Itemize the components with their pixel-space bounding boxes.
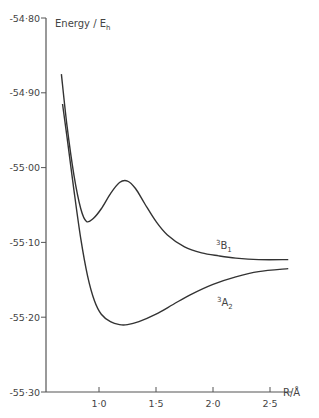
x-tick-label: 1·0	[91, 398, 106, 409]
energy-curve-chart: -54·80-54·90-55·00-55·10-55·20-55·30 1·0…	[0, 0, 319, 418]
x-tick-label: 2·0	[205, 398, 220, 409]
y-tick-label: -54·90	[9, 87, 40, 98]
y-tick-label: -55·20	[9, 312, 40, 323]
y-ticks: -54·80-54·90-55·00-55·10-55·20-55·30	[9, 13, 46, 398]
curve-label-3b1: 3B1	[216, 239, 232, 254]
y-tick-label: -55·00	[9, 162, 40, 173]
y-tick-label: -54·80	[9, 13, 40, 24]
x-ticks: 1·01·52·02·5	[91, 387, 277, 409]
curve-label-3a2: 3A2	[217, 296, 233, 311]
x-tick-label: 2·5	[262, 398, 277, 409]
curves	[61, 74, 288, 325]
y-axis-title: Energy / Eh	[55, 18, 111, 32]
y-tick-label: -55·10	[9, 237, 40, 248]
x-axis-title: R/Å	[283, 386, 300, 398]
y-tick-label: -55·30	[9, 387, 40, 398]
axes	[46, 18, 292, 392]
curve-3b1	[61, 74, 288, 260]
x-tick-label: 1·5	[148, 398, 163, 409]
